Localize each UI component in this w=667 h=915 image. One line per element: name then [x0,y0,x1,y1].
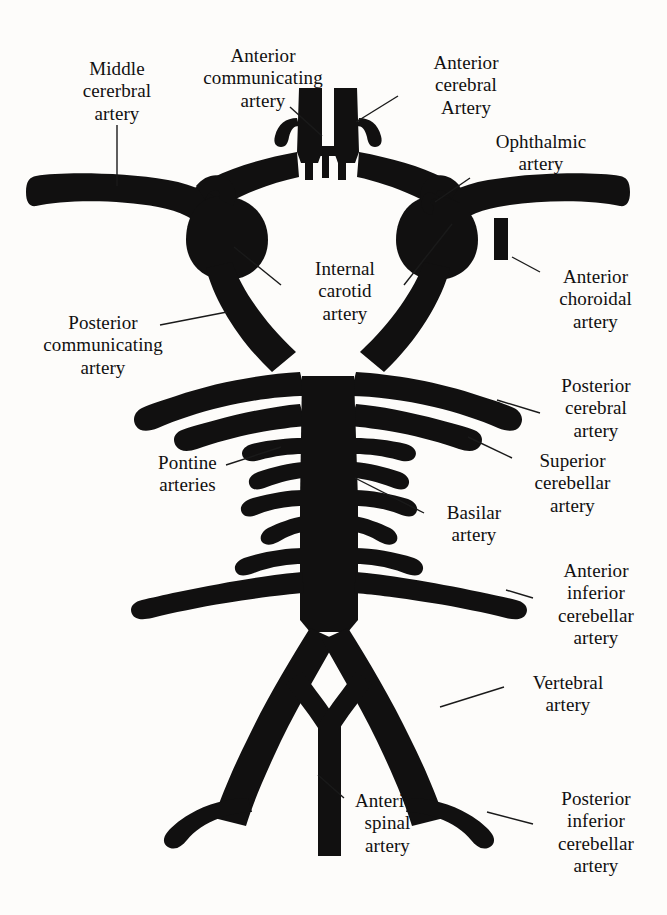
aca-stub-left [305,156,313,180]
leader-anterior-inferior-cerebellar-artery [506,590,533,598]
aica-right-vessel [354,572,527,619]
heubner-right-vessel [357,118,382,147]
pontine-artery-right-5 [355,548,423,576]
label-basilar-artery: Basilar artery [424,502,524,547]
leader-posterior-inferior-cerebellar-artery [487,812,533,824]
label-anterior-inferior-cerebellar-artery: Anterior inferior cerebellar artery [531,560,661,650]
label-anterior-choroidal-artery: Anterior choroidal artery [533,266,658,333]
leader-vertebral-artery [440,687,504,707]
label-posterior-inferior-cerebellar-artery: Posterior inferior cerebellar artery [531,788,661,878]
label-pontine-arteries: Pontine arteries [130,452,245,497]
pontine-artery-right-2 [355,462,409,490]
label-posterior-communicating-artery: Posterior communicating artery [12,312,194,379]
circle-of-willis-figure: Middle cererbral artery Anterior communi… [0,0,667,915]
aica-left-vessel [131,572,304,619]
heubner-left-vessel [274,118,299,147]
pontine-artery-right-1 [355,438,416,461]
posterior-communicating-left-vessel [206,262,296,372]
basilar-artery-vessel [300,376,358,632]
pontine-artery-left-2 [249,462,303,490]
label-posterior-cerebral-artery: Posterior cerebral artery [531,375,661,442]
leader-anterior-cerebral-artery [356,96,398,122]
aca-stub-mid [322,156,329,178]
label-anterior-communicating-artery: Anterior communicating artery [168,45,358,112]
anterior-communicating-vessel [318,146,338,156]
label-ophthalmic-artery: Ophthalmic artery [466,131,616,176]
aca-stub-right [338,156,346,180]
anterior-choroidal-vessel [494,218,508,260]
pontine-artery-left-5 [235,548,303,576]
pontine-artery-left-4 [261,516,303,545]
label-superior-cerebellar-artery: Superior cerebellar artery [505,450,640,517]
pontine-artery-right-4 [355,516,397,545]
pontine-artery-left-3 [241,490,303,517]
label-anterior-cerebral-artery: Anterior cerebral Artery [396,52,536,119]
label-internal-carotid-artery: Internal carotid artery [285,258,405,325]
label-vertebral-artery: Vertebral artery [508,672,628,717]
label-anterior-spinal-artery: Anterior spinal artery [330,790,445,857]
